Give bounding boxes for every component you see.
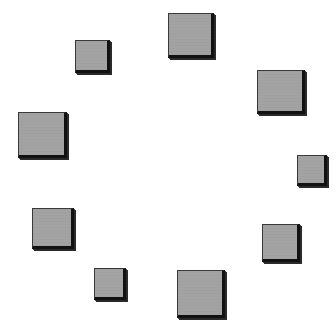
square-bottom-left-small <box>94 268 126 300</box>
square-right <box>297 155 327 186</box>
square-bottom-left <box>32 208 74 249</box>
diagram-canvas <box>0 0 336 323</box>
square-bottom-right <box>262 224 300 262</box>
square-top-center <box>168 13 214 58</box>
square-bottom-center <box>177 270 225 318</box>
square-top-left <box>75 40 110 73</box>
square-top-right <box>257 70 305 114</box>
square-left <box>18 112 67 158</box>
